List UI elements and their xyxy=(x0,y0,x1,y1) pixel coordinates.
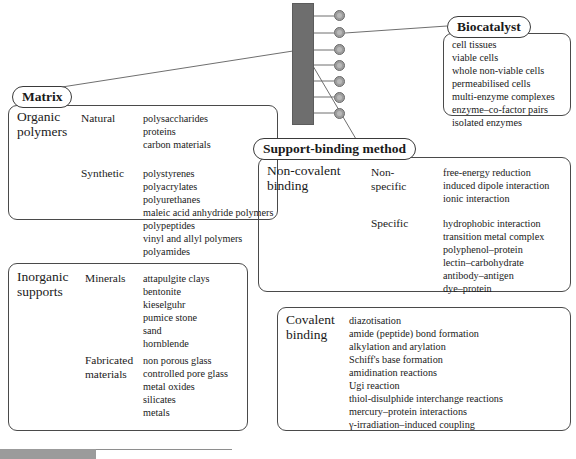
group-name: Fabricated xyxy=(85,353,133,367)
matrix-organic-group-natural-name: Natural xyxy=(81,111,115,125)
group-name-line2: materials xyxy=(85,367,133,381)
matrix-inorganic-label: Inorganic supports xyxy=(17,270,95,299)
label-line: Inorganic xyxy=(17,270,95,285)
list-item: Schiff's base formation xyxy=(349,353,503,366)
support-binding-title: Support-binding method xyxy=(253,138,416,160)
bound-enzyme-bead-4 xyxy=(334,60,345,71)
label-line: supports xyxy=(17,285,95,300)
list-item: metal oxides xyxy=(143,380,228,393)
matrix-inorganic-group-minerals-items: attapulgite clays bentonite kieselguhr p… xyxy=(143,272,209,350)
list-item: controlled pore glass xyxy=(143,367,228,380)
list-item: polyacrylates xyxy=(143,180,273,193)
list-item: sand xyxy=(143,324,209,337)
list-item: multi-enzyme complexes xyxy=(452,90,574,103)
list-item: alkylation and arylation xyxy=(349,340,503,353)
label-line: Non-covalent xyxy=(267,164,367,179)
matrix-inorganic-group-fabricated-items: non porous glass controlled pore glass m… xyxy=(143,354,228,419)
list-item: maleic acid anhydride polymers xyxy=(143,206,273,219)
list-item: free-energy reduction xyxy=(443,166,549,179)
group-name: Minerals xyxy=(85,271,126,285)
list-item: proteins xyxy=(143,125,211,138)
group-name: Specific xyxy=(371,216,408,230)
list-item: polysaccharides xyxy=(143,112,211,125)
group-name: Natural xyxy=(81,111,115,125)
list-item: amide (peptide) bond formation xyxy=(349,327,503,340)
list-item: ionic interaction xyxy=(443,192,549,205)
list-item: cell tissues xyxy=(452,38,574,51)
bound-enzyme-bead-5 xyxy=(334,76,345,87)
list-item: mercury–protein interactions xyxy=(349,405,503,418)
list-item: induced dipole interaction xyxy=(443,179,549,192)
list-item: transition metal complex xyxy=(443,230,544,243)
biocatalyst-title: Biocatalyst xyxy=(447,16,531,38)
matrix-title: Matrix xyxy=(12,86,72,108)
list-item: vinyl and allyl polymers xyxy=(143,232,273,245)
group-name: Synthetic xyxy=(81,166,124,180)
list-item: attapulgite clays xyxy=(143,272,209,285)
footer-accent-block xyxy=(0,449,96,459)
list-item: viable cells xyxy=(452,51,574,64)
list-item: permeabilised cells xyxy=(452,77,574,90)
list-item: kieselguhr xyxy=(143,298,209,311)
group-name-line2: specific xyxy=(371,179,406,193)
matrix-inorganic-group-minerals-name: Minerals xyxy=(85,271,126,285)
list-item: lectin–carbohydrate xyxy=(443,256,544,269)
list-item: enzyme–co-factor pairs xyxy=(452,103,574,116)
list-item: polyurethanes xyxy=(143,193,273,206)
list-item: polystyrenes xyxy=(143,167,273,180)
list-item: hornblende xyxy=(143,337,209,350)
matrix-organic-group-natural-items: polysaccharides proteins carbon material… xyxy=(143,112,211,151)
list-item: bentonite xyxy=(143,285,209,298)
support-matrix-bar xyxy=(292,3,314,125)
list-item: carbon materials xyxy=(143,138,211,151)
list-item: pumice stone xyxy=(143,311,209,324)
list-item: Ugi reaction xyxy=(349,379,503,392)
group-name: Non- xyxy=(371,165,406,179)
non-covalent-group-nonspecific-items: free-energy reduction induced dipole int… xyxy=(443,166,549,205)
list-item: polyphenol–protein xyxy=(443,243,544,256)
bound-enzyme-bead-2 xyxy=(334,27,345,38)
label-line: polymers xyxy=(17,125,87,140)
bound-enzyme-bead-7 xyxy=(334,108,345,119)
bound-enzyme-bead-6 xyxy=(334,92,345,103)
list-item: amidination reactions xyxy=(349,366,503,379)
list-item: metals xyxy=(143,406,228,419)
matrix-inorganic-group-fabricated-name: Fabricated materials xyxy=(85,353,133,381)
matrix-organic-group-synthetic-name: Synthetic xyxy=(81,166,124,180)
list-item: dye–protein xyxy=(443,282,544,295)
non-covalent-group-nonspecific-name: Non- specific xyxy=(371,165,406,193)
list-item: antibody–antigen xyxy=(443,269,544,282)
footer-rule xyxy=(96,449,232,450)
matrix-organic-group-synthetic-items: polystyrenes polyacrylates polyurethanes… xyxy=(143,167,273,258)
diagram-canvas: Biocatalyst cell tissues viable cells wh… xyxy=(0,0,576,459)
non-covalent-group-specific-items: hydrophobic interaction transition metal… xyxy=(443,217,544,295)
list-item: whole non-viable cells xyxy=(452,64,574,77)
list-item: thiol-disulphide interchange reactions xyxy=(349,392,503,405)
list-item: γ-irradiation–induced coupling xyxy=(349,418,503,431)
biocatalyst-items: cell tissues viable cells whole non-viab… xyxy=(452,38,574,129)
list-item: isolated enzymes xyxy=(452,116,574,129)
non-covalent-group-specific-name: Specific xyxy=(371,216,408,230)
list-item: diazotisation xyxy=(349,314,503,327)
non-covalent-binding-label: Non-covalent binding xyxy=(267,164,367,193)
bound-enzyme-bead-1 xyxy=(334,10,345,21)
list-item: non porous glass xyxy=(143,354,228,367)
list-item: polyamides xyxy=(143,245,273,258)
list-item: polypeptides xyxy=(143,219,273,232)
label-line: binding xyxy=(267,179,367,194)
bound-enzyme-bead-3 xyxy=(334,44,345,55)
label-line: Organic xyxy=(17,110,87,125)
list-item: hydrophobic interaction xyxy=(443,217,544,230)
matrix-organic-label: Organic polymers xyxy=(17,110,87,139)
list-item: silicates xyxy=(143,393,228,406)
covalent-binding-items: diazotisation amide (peptide) bond forma… xyxy=(349,314,503,431)
